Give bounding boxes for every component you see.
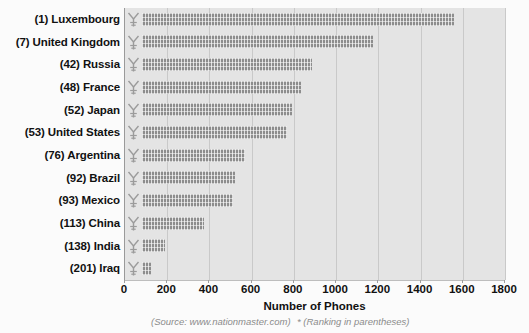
bar-row <box>125 189 506 212</box>
bar-row <box>125 144 506 167</box>
bar-row <box>125 8 506 31</box>
antenna-tower-icon <box>127 170 140 186</box>
x-tick-label: 200 <box>157 283 176 295</box>
x-tick-label: 1600 <box>449 283 475 295</box>
bar <box>142 58 312 71</box>
bar <box>142 217 204 230</box>
bar <box>142 194 233 207</box>
plot-inner <box>125 8 506 280</box>
bar <box>142 81 301 94</box>
antenna-tower-icon <box>127 192 140 208</box>
x-tick-label: 1400 <box>407 283 433 295</box>
x-axis-title: Number of Phones <box>124 300 505 312</box>
x-tick-label: 0 <box>121 283 127 295</box>
y-axis-label: (76) Argentina <box>45 144 121 167</box>
bar <box>142 262 151 275</box>
bar-row <box>125 257 506 280</box>
antenna-tower-icon <box>127 124 140 140</box>
bar-row <box>125 121 506 144</box>
bar-row <box>125 235 506 258</box>
y-axis-label: (113) China <box>60 212 120 235</box>
antenna-tower-icon <box>127 260 140 276</box>
bar-row <box>125 167 506 190</box>
antenna-tower-icon <box>127 11 140 27</box>
bar <box>142 171 235 184</box>
y-axis-label: (7) United Kingdom <box>16 31 120 54</box>
x-tick-label: 600 <box>241 283 260 295</box>
y-axis-category-labels: (1) Luxembourg(7) United Kingdom(42) Rus… <box>0 8 124 280</box>
y-axis-label: (93) Mexico <box>58 189 120 212</box>
y-axis-label: (42) Russia <box>60 53 120 76</box>
y-axis-label: (1) Luxembourg <box>35 8 121 31</box>
x-tick-label: 1200 <box>365 283 391 295</box>
x-axis-line <box>124 280 505 281</box>
y-axis-label: (52) Japan <box>64 99 120 122</box>
bar-row <box>125 53 506 76</box>
x-tick-label: 1800 <box>491 283 517 295</box>
bar <box>142 239 165 252</box>
bar <box>142 103 292 116</box>
antenna-tower-icon <box>127 102 140 118</box>
bar-row <box>125 99 506 122</box>
y-axis-label: (92) Brazil <box>66 167 120 190</box>
y-axis-label: (138) India <box>64 235 120 258</box>
bar <box>142 13 454 26</box>
bar-row <box>125 76 506 99</box>
y-axis-label: (201) Iraq <box>70 257 120 280</box>
bar <box>142 149 245 162</box>
antenna-tower-icon <box>127 238 140 254</box>
plot-area <box>124 8 506 280</box>
bar-row <box>125 212 506 235</box>
x-tick-label: 400 <box>199 283 218 295</box>
source-note: (Source: www.nationmaster.com) <box>151 316 291 327</box>
y-axis-label: (53) United States <box>25 121 120 144</box>
bar <box>142 126 287 139</box>
x-tick-label: 800 <box>283 283 302 295</box>
phones-per-country-bar-chart: (1) Luxembourg(7) United Kingdom(42) Rus… <box>0 0 529 333</box>
antenna-tower-icon <box>127 215 140 231</box>
antenna-tower-icon <box>127 56 140 72</box>
bar <box>142 35 373 48</box>
x-tick-label: 1000 <box>322 283 348 295</box>
ranking-note: * (Ranking in parentheses) <box>297 316 409 327</box>
antenna-tower-icon <box>127 79 140 95</box>
y-axis-label: (48) France <box>60 76 120 99</box>
bar-row <box>125 31 506 54</box>
antenna-tower-icon <box>127 34 140 50</box>
antenna-tower-icon <box>127 147 140 163</box>
